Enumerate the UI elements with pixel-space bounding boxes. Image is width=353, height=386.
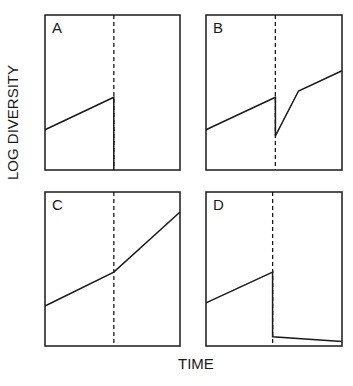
panel-label-b: B (213, 19, 223, 36)
y-axis-label: LOG DIVERSITY (4, 65, 21, 180)
panel-b (206, 15, 342, 170)
panel-d (206, 192, 342, 346)
diversity-line (45, 212, 180, 306)
panel-a (45, 15, 180, 170)
panel-frame (45, 15, 180, 170)
diversity-line (206, 71, 342, 136)
panel-label-c: C (52, 196, 63, 213)
panel-frame (206, 15, 342, 170)
panel-frame (45, 192, 180, 346)
x-axis-label: TIME (178, 355, 214, 372)
chart-canvas (0, 0, 353, 386)
panel-frame (206, 192, 342, 346)
diversity-line (206, 272, 342, 341)
panel-label-a: A (52, 19, 62, 36)
panel-label-d: D (213, 196, 224, 213)
panel-c (45, 192, 180, 346)
diversity-line (45, 97, 114, 170)
